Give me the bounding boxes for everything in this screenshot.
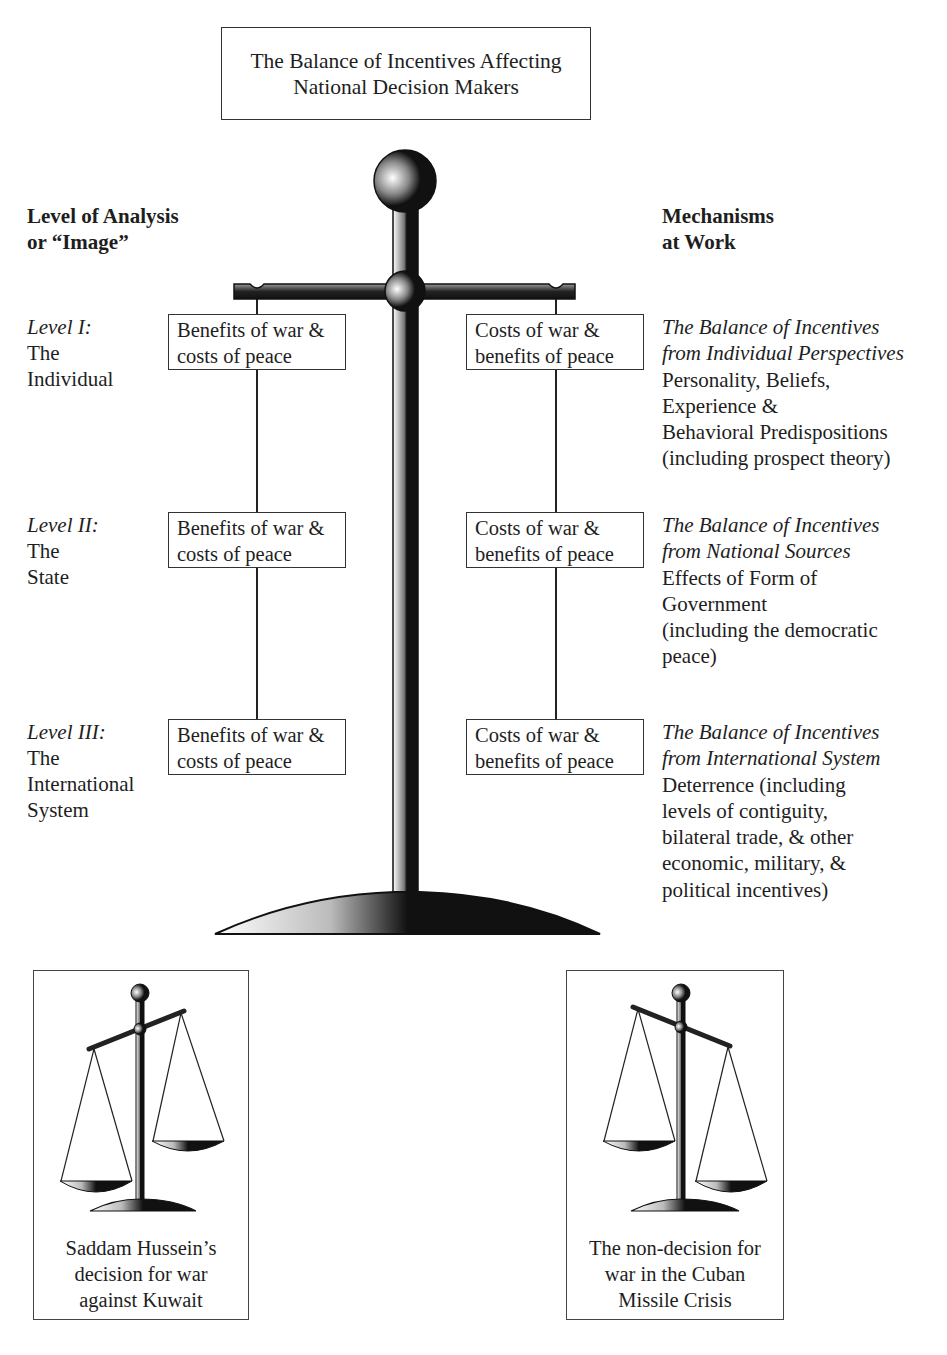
case-saddam-hussein: Saddam Hussein’s decision for war agains… [33,970,249,1320]
caption-line: The non-decision for [567,1235,783,1261]
mechanism-title: The Balance of Incentives [662,314,904,340]
level-number: Level II: [27,512,99,538]
level-1-label: Level I: The Individual [27,314,113,392]
box-line: costs of peace [177,343,345,369]
level-3-label: Level III: The International System [27,719,134,823]
tilted-scale-icon [34,971,250,1221]
level-2-label: Level II: The State [27,512,99,590]
box-line: Costs of war & [475,317,643,343]
mechanism-body: Personality, Beliefs, [662,367,904,393]
heading-line: Mechanisms [662,203,774,229]
level-name: Individual [27,366,113,392]
box-line: Benefits of war & [177,317,345,343]
box-line: costs of peace [177,541,345,567]
box-line: Costs of war & [475,722,643,748]
level-3-benefits-box: Benefits of war & costs of peace [168,719,346,775]
mechanism-title: from International System [662,745,881,771]
mechanism-body: Deterrence (including [662,772,881,798]
caption-line: war in the Cuban [567,1261,783,1287]
mechanism-body: Effects of Form of [662,565,880,591]
caption-line: against Kuwait [34,1287,248,1313]
level-name: System [27,797,134,823]
mechanism-body: Experience & [662,393,904,419]
mechanism-title: The Balance of Incentives [662,719,881,745]
level-3-costs-box: Costs of war & benefits of peace [466,719,644,775]
level-1-benefits-box: Benefits of war & costs of peace [168,314,346,370]
case-cuban-missile-crisis: The non-decision for war in the Cuban Mi… [566,970,784,1320]
level-number: Level I: [27,314,113,340]
mechanism-body: economic, military, & [662,850,881,876]
mechanism-body: (including prospect theory) [662,445,904,471]
mechanism-title: from Individual Perspectives [662,340,904,366]
level-number: Level III: [27,719,134,745]
caption-line: Saddam Hussein’s [34,1235,248,1261]
level-3-mechanism: The Balance of Incentives from Internati… [662,719,881,903]
mechanism-title: from National Sources [662,538,880,564]
level-name: The [27,538,99,564]
mechanism-body: Behavioral Predispositions [662,419,904,445]
level-of-analysis-heading: Level of Analysis or “Image” [27,203,179,255]
caption-line: decision for war [34,1261,248,1287]
level-1-mechanism: The Balance of Incentives from Individua… [662,314,904,472]
heading-line: at Work [662,229,774,255]
box-line: benefits of peace [475,541,643,567]
mechanism-body: peace) [662,643,880,669]
level-1-costs-box: Costs of war & benefits of peace [466,314,644,370]
level-name: International [27,771,134,797]
box-line: Costs of war & [475,515,643,541]
level-name: The [27,745,134,771]
box-line: costs of peace [177,748,345,774]
heading-line: Level of Analysis [27,203,179,229]
mechanisms-heading: Mechanisms at Work [662,203,774,255]
level-2-mechanism: The Balance of Incentives from National … [662,512,880,670]
mechanism-body: levels of contiguity, [662,798,881,824]
level-2-benefits-box: Benefits of war & costs of peace [168,512,346,568]
box-line: benefits of peace [475,343,643,369]
box-line: benefits of peace [475,748,643,774]
level-name: The [27,340,113,366]
mechanism-body: bilateral trade, & other [662,824,881,850]
level-name: State [27,564,99,590]
tilted-scale-icon [567,971,785,1221]
caption-line: Missile Crisis [567,1287,783,1313]
case-caption: The non-decision for war in the Cuban Mi… [567,1235,783,1313]
level-2-costs-box: Costs of war & benefits of peace [466,512,644,568]
heading-line: or “Image” [27,229,179,255]
box-line: Benefits of war & [177,722,345,748]
mechanism-body: (including the democratic [662,617,880,643]
case-caption: Saddam Hussein’s decision for war agains… [34,1235,248,1313]
mechanism-title: The Balance of Incentives [662,512,880,538]
mechanism-body: Government [662,591,880,617]
mechanism-body: political incentives) [662,877,881,903]
box-line: Benefits of war & [177,515,345,541]
